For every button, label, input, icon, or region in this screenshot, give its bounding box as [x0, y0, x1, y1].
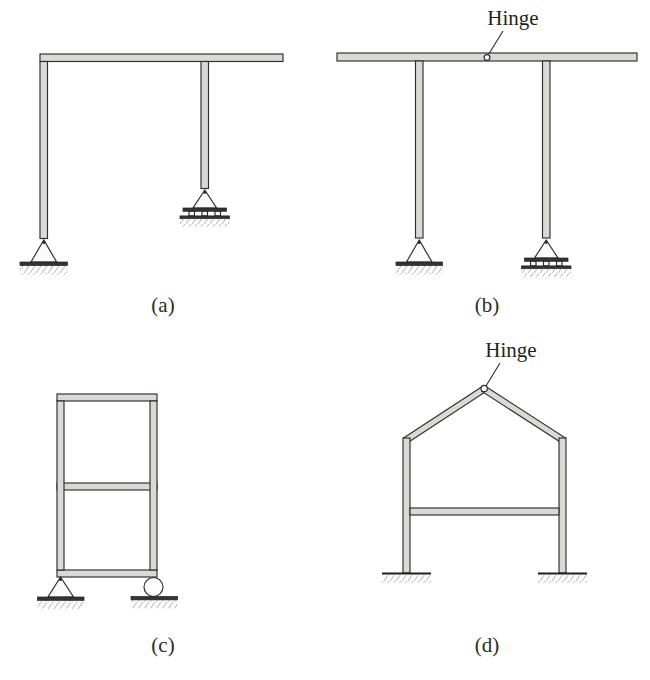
panel-a-pin-support — [20, 240, 68, 275]
pin-support-base-plate — [38, 597, 85, 600]
panel-c-left-column — [57, 401, 64, 570]
panel-c-pin-support — [38, 577, 85, 609]
panel-d-right-fixed-support — [538, 574, 587, 584]
panel-b-hinge-label: Hinge — [487, 6, 538, 30]
panel-a-rocker-support — [180, 190, 230, 227]
panel-c: (c) — [38, 394, 178, 657]
panel-d-tie-beam — [410, 508, 559, 515]
panel-c-roof-beam — [57, 394, 157, 401]
panel-d-right-rafter — [482, 387, 566, 443]
rocker-support-base-plate — [522, 266, 572, 269]
panel-b-hinge-leader-line — [489, 31, 504, 55]
pin-support-ground-hatch — [38, 600, 85, 609]
pin-support-base-plate — [20, 262, 68, 266]
panel-c-right-column — [150, 401, 157, 570]
figure-canvas: (a) Hinge (b) — [0, 0, 650, 680]
structural-frames-figure: (a) Hinge (b) — [0, 0, 650, 680]
panel-c-mid-beam — [57, 483, 157, 490]
rocker-support-ground-hatch — [522, 269, 572, 277]
panel-d: Hinge (d) — [382, 338, 587, 657]
rocker-roller-3 — [557, 261, 563, 266]
pin-support-base-plate — [396, 262, 443, 266]
rocker-support-ground-hatch — [180, 219, 230, 227]
fixed-support-ground-hatch — [538, 575, 587, 584]
rocker-support-dot — [545, 241, 548, 244]
panel-b-pin-support — [396, 240, 443, 275]
panel-d-left-fixed-support — [382, 574, 431, 584]
pin-support-ground-hatch — [20, 266, 68, 275]
panel-d-right-column — [559, 438, 566, 573]
rocker-roller-3 — [215, 211, 221, 216]
panel-b-left-column — [416, 61, 424, 238]
roller-support-circle — [144, 578, 163, 597]
panel-d-caption: (d) — [475, 633, 500, 657]
panel-b-rocker-support — [522, 240, 572, 277]
panel-d-hinge-label: Hinge — [485, 338, 536, 362]
panel-c-caption: (c) — [151, 633, 174, 657]
panel-b-caption: (b) — [475, 293, 500, 317]
pin-support-dot — [42, 241, 45, 244]
panel-b-hinge-icon — [484, 55, 490, 61]
panel-a-beam — [40, 54, 283, 62]
panel-a-caption: (a) — [151, 293, 174, 317]
fixed-support-ground-hatch — [382, 575, 431, 584]
rocker-roller-2 — [544, 261, 550, 266]
panel-b: Hinge (b) — [337, 6, 637, 317]
pin-support-ground-hatch — [396, 266, 443, 275]
rocker-support-dot — [203, 191, 206, 194]
rocker-roller-2 — [202, 211, 208, 216]
panel-c-roller-support — [131, 578, 178, 609]
panel-a-left-column — [40, 62, 48, 239]
pin-support-dot — [59, 578, 62, 581]
panel-b-right-column — [543, 61, 551, 238]
pin-support-dot — [418, 241, 421, 244]
panel-d-hinge-leader-line — [486, 363, 500, 386]
rocker-support-base-plate — [180, 216, 230, 219]
panel-c-bottom-beam — [57, 570, 157, 577]
rocker-roller-1 — [189, 211, 195, 216]
panel-d-left-column — [403, 438, 410, 573]
panel-d-left-rafter — [404, 387, 487, 443]
panel-a: (a) — [20, 54, 283, 317]
panel-a-right-column — [201, 62, 209, 189]
roller-support-ground-hatch — [131, 600, 178, 609]
rocker-roller-1 — [531, 261, 537, 266]
roller-support-base-plate — [131, 597, 178, 600]
